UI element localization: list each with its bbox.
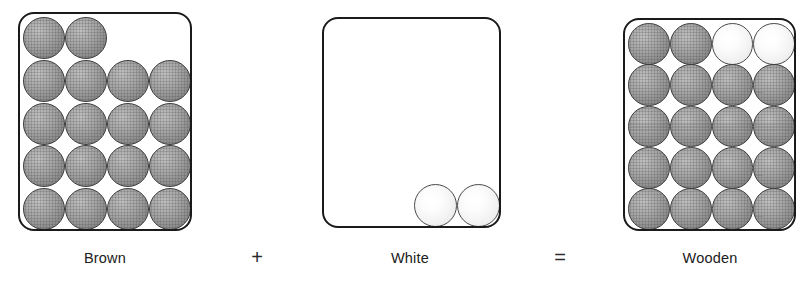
sphere-gray [712, 106, 754, 148]
sphere-gray [107, 188, 149, 230]
sphere-gray [23, 188, 65, 230]
sphere-gray [149, 103, 191, 145]
sphere-gray [23, 60, 65, 102]
sphere-gray [670, 23, 712, 65]
sphere-gray [149, 188, 191, 230]
figure-canvas: Brown + White = Wooden [0, 0, 809, 296]
sphere-gray [628, 147, 670, 189]
sphere-white [414, 184, 457, 227]
sphere-gray [628, 188, 670, 230]
container-white [322, 17, 501, 228]
sphere-gray [107, 103, 149, 145]
sphere-gray [670, 106, 712, 148]
sphere-gray [670, 147, 712, 189]
container-wooden [623, 18, 796, 231]
sphere-gray [628, 23, 670, 65]
sphere-gray [628, 64, 670, 106]
sphere-white [753, 23, 795, 65]
sphere-gray [107, 60, 149, 102]
sphere-gray [670, 64, 712, 106]
sphere-gray [712, 147, 754, 189]
sphere-white [712, 23, 754, 65]
sphere-gray [23, 17, 65, 59]
sphere-gray [712, 188, 754, 230]
sphere-gray [65, 145, 107, 187]
sphere-gray [65, 60, 107, 102]
sphere-gray [753, 188, 795, 230]
sphere-gray [107, 145, 149, 187]
sphere-gray [753, 64, 795, 106]
sphere-white [457, 184, 500, 227]
sphere-gray [753, 147, 795, 189]
sphere-gray [670, 188, 712, 230]
sphere-gray [149, 145, 191, 187]
label-brown: Brown [40, 250, 170, 266]
sphere-gray [65, 103, 107, 145]
sphere-gray [65, 17, 107, 59]
sphere-gray [628, 106, 670, 148]
sphere-gray [23, 145, 65, 187]
plus-operator-icon: + [232, 246, 282, 269]
label-white: White [340, 250, 480, 266]
sphere-gray [149, 60, 191, 102]
sphere-gray [23, 103, 65, 145]
sphere-gray [712, 64, 754, 106]
label-wooden: Wooden [640, 250, 780, 266]
container-brown [18, 12, 192, 231]
equals-operator-icon: = [535, 246, 585, 269]
sphere-gray [65, 188, 107, 230]
sphere-gray [753, 106, 795, 148]
